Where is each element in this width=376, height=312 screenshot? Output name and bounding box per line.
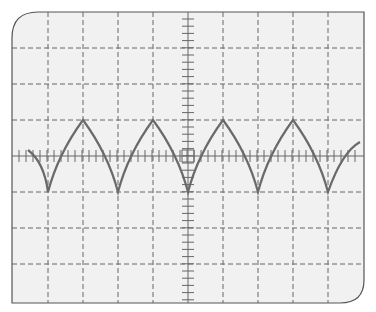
oscilloscope-screen [0, 0, 376, 312]
